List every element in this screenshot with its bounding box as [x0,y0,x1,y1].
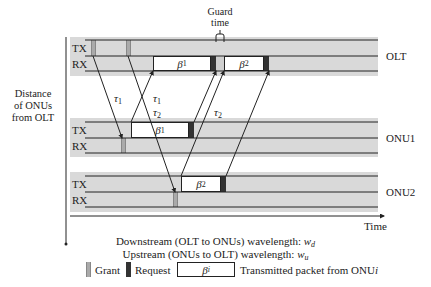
legend-packet-sub: i [208,265,210,274]
downstream-text: Downstream (OLT to ONUs) wavelength: [116,235,304,247]
upstream-var: w [297,248,304,260]
onu2-label: ONU2 [386,186,415,198]
tau-sub: 2 [218,111,222,120]
upstream-sub: u [305,253,309,262]
y-axis-line-2: of ONUs [4,100,62,112]
olt-tx-label: TX [72,42,87,54]
upstream-text: Upstream (ONUs to OLT) wavelength: [123,248,298,260]
legend-packet-swatch: βi [177,262,235,277]
guard-time-label: Guard time [204,6,236,28]
downstream-var: w [304,235,311,247]
legend-request-label: Request [135,264,170,276]
tau-2-center: τ2 [153,106,161,122]
y-axis-line-1: Distance [4,88,62,100]
onu1-rx-label: RX [72,140,87,152]
legend-packet-desc: Transmitted packet from ONU [240,264,375,276]
legend-packet-label: Transmitted packet from ONUi [240,264,378,276]
tau-sub: 2 [157,111,161,120]
tau-sub: 1 [157,97,161,106]
tau-1-left: τ1 [114,92,122,108]
onu2-tx-label: TX [72,178,87,190]
guard-time-text: Guard time [208,6,233,28]
y-axis-label: Distance of ONUs from OLT [4,88,62,124]
onu1-label: ONU1 [386,132,415,144]
legend-grant-swatch [86,262,91,277]
y-axis-line-3: from OLT [4,112,62,124]
olt-rx-label: RX [72,58,87,70]
legend-packet-var: i [375,264,378,276]
tau-2-right: τ2 [214,106,222,122]
x-axis-label: Time [364,220,387,232]
onu1-tx-label: TX [72,124,87,136]
legend-grant-label: Grant [95,264,120,276]
onu2-rx-label: RX [72,194,87,206]
tau-sub: 1 [118,97,122,106]
olt-label: OLT [386,50,406,62]
legend-request-swatch [126,262,131,277]
